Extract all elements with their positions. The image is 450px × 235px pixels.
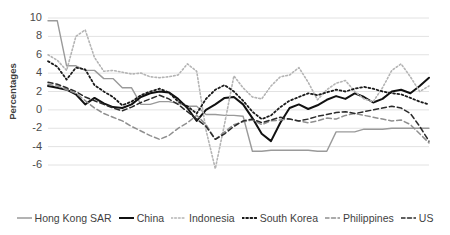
legend-swatch-hong-kong-sar [17, 214, 32, 222]
legend-label-china: China [137, 212, 164, 224]
legend-label-us: US [419, 212, 434, 224]
axis-mask [0, 172, 450, 212]
legend-label-philippines: Philippines [343, 212, 394, 224]
legend-label-south-korea: South Korea [260, 212, 318, 224]
series-line-indonesia [48, 30, 429, 169]
legend-item-hong-kong-sar[interactable]: Hong Kong SAR [17, 212, 112, 224]
legend-item-indonesia[interactable]: Indonesia [171, 212, 235, 224]
chart-legend: Hong Kong SARChinaIndonesiaSouth KoreaPh… [0, 207, 450, 229]
legend-item-philippines[interactable]: Philippines [325, 212, 394, 224]
legend-swatch-us [401, 214, 416, 222]
legend-label-hong-kong-sar: Hong Kong SAR [35, 212, 112, 224]
legend-item-south-korea[interactable]: South Korea [242, 212, 318, 224]
legend-swatch-china [119, 214, 134, 222]
legend-swatch-indonesia [171, 214, 186, 222]
legend-item-us[interactable]: US [401, 212, 434, 224]
plot-area [0, 0, 450, 235]
series-line-south-korea [48, 61, 429, 119]
legend-swatch-philippines [325, 214, 340, 222]
legend-item-china[interactable]: China [119, 212, 164, 224]
series-line-hong-kong-sar [48, 21, 429, 151]
legend-label-indonesia: Indonesia [189, 212, 235, 224]
line-chart: Percentages 1086420-2-4-6 20002001200220… [0, 0, 450, 235]
legend-swatch-south-korea [242, 214, 257, 222]
